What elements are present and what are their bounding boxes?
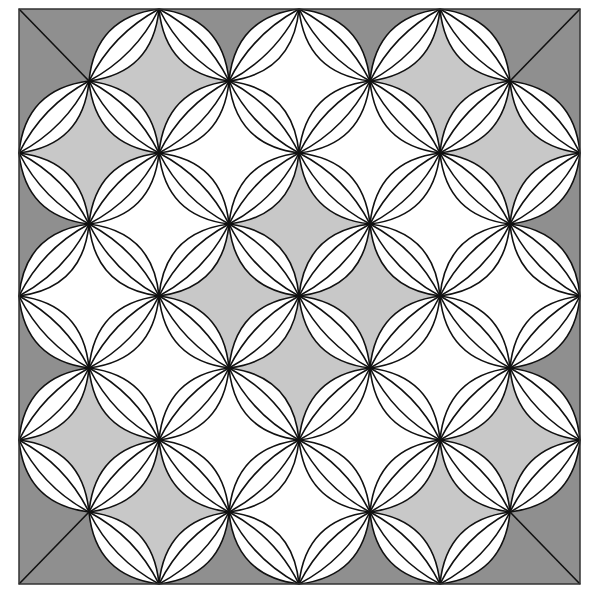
quilt-pattern: Orange peel quilt block pattern [0, 0, 596, 590]
